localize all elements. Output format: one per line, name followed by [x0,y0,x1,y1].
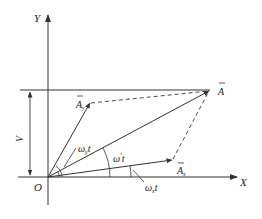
dashed-ay-to-a [91,91,209,103]
angle-arc-omega-prime [103,148,110,177]
omega-y-label: ωyt [78,143,91,155]
leader-omega-x [133,170,144,182]
vector-diagram: Y X O V A Ay Ax ωyt [0,0,262,219]
y-axis-label: Y [34,12,42,24]
vector-ay-label: Ay [75,99,85,111]
vector-ax-label: Ax [176,165,186,177]
dashed-ax-to-a [173,91,209,159]
x-axis-label: X [239,176,248,188]
angle-arc-omega-x [130,166,131,177]
vector-a-label: A [217,86,225,97]
origin-label: O [34,181,42,193]
omega-prime-label: ω′t [113,152,125,164]
omega-x-label: ωxt [145,182,158,194]
x-axis: X [18,176,248,188]
leader-omega-y [64,148,76,167]
v-label: V [14,134,25,142]
vector-ay: Ay [48,96,90,177]
y-axis: Y [34,12,48,205]
v-dimension: V [14,92,30,175]
